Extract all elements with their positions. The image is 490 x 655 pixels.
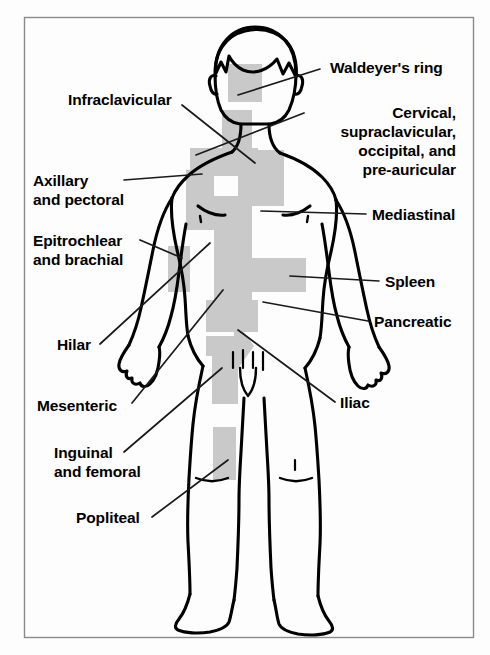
label-waldeyers-ring: Waldeyer's ring [330, 58, 443, 77]
label-popliteal: Popliteal [76, 508, 140, 527]
label-epitrochlear-and-brachial: Epitrochlear and brachial [33, 231, 123, 269]
label-inguinal-and-femoral: Inguinal and femoral [54, 443, 141, 481]
label-hilar: Hilar [57, 335, 91, 354]
label-mediastinal: Mediastinal [372, 205, 455, 224]
nipple-left [200, 216, 201, 222]
shade-popliteal [213, 427, 236, 480]
label-cervical-supraclavicular-occipital-pre-auricular: Cervical, supraclavicular, occipital, an… [0, 103, 456, 179]
lymph-node-diagram: Waldeyer's ringInfraclavicularCervical, … [0, 0, 490, 655]
shade-mediastinal-hilar [214, 196, 252, 300]
nipple-right [307, 216, 308, 222]
shade-spleen [252, 258, 306, 292]
shade-pancreatic-mesenteric [206, 300, 258, 332]
label-spleen: Spleen [385, 272, 435, 291]
label-iliac: Iliac [340, 393, 370, 412]
label-axillary-and-pectoral: Axillary and pectoral [33, 171, 124, 209]
label-pancreatic: Pancreatic [374, 312, 451, 331]
label-mesenteric: Mesenteric [37, 396, 117, 415]
